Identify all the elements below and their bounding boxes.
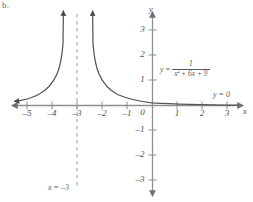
x-tick-label--2: –2 <box>95 108 109 118</box>
graph-figure: b. <box>0 0 253 202</box>
x-tick-label-2: 2 <box>195 108 209 118</box>
y-axis-label: y <box>149 4 153 14</box>
y-tick-label-3: 3 <box>137 24 148 34</box>
x-tick-label-1: 1 <box>170 108 184 118</box>
y-tick-label--2: –2 <box>133 149 147 159</box>
y-tick-label--3: –3 <box>133 174 147 184</box>
vertical-asymptote-label: x = –3 <box>48 183 69 192</box>
x-tick-label--1: –1 <box>120 108 134 118</box>
x-tick-label--5: –5 <box>20 108 34 118</box>
horizontal-asymptote-label: y = 0 <box>213 90 230 99</box>
y-tick-label-0: 0 <box>137 107 148 117</box>
coordinate-plane <box>0 0 253 202</box>
denominator-exponent: 2 <box>178 68 181 74</box>
curve-left-branch <box>15 11 64 101</box>
x-tick-label--4: –4 <box>45 108 59 118</box>
equation-lhs: y = <box>160 65 170 74</box>
denominator-rest: + 6x + 9 <box>181 69 208 78</box>
equation-denominator: x2 + 6x + 9 <box>172 70 209 78</box>
equation-fraction: 1 x2 + 6x + 9 <box>172 60 209 78</box>
x-tick-label-3: 3 <box>220 108 234 118</box>
y-tick-label-2: 2 <box>137 49 148 59</box>
y-tick-label-1: 1 <box>137 74 148 84</box>
equation-annotation: y = 1 x2 + 6x + 9 <box>160 60 210 78</box>
x-axis-label: x <box>243 106 247 116</box>
y-tick-label--1: –1 <box>133 124 147 134</box>
x-tick-label--3: –3 <box>70 108 84 118</box>
y-axis <box>149 12 157 196</box>
equation-numerator: 1 <box>186 60 196 68</box>
